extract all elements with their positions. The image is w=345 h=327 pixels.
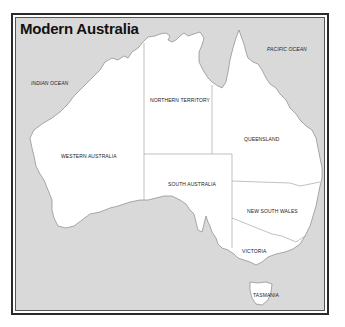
label-south-australia: SOUTH AUSTRALIA bbox=[168, 181, 216, 187]
label-northern-territory: NORTHERN TERRITORY bbox=[150, 97, 210, 103]
label-queensland: QUEENSLAND bbox=[244, 136, 279, 142]
label-indian-ocean: INDIAN OCEAN bbox=[31, 80, 68, 86]
map-title: Modern Australia bbox=[20, 20, 139, 37]
label-pacific-ocean: PACIFIC OCEAN bbox=[267, 46, 307, 52]
label-new-south-wales: NEW SOUTH WALES bbox=[247, 208, 298, 214]
label-western-australia: WESTERN AUSTRALIA bbox=[61, 153, 117, 159]
label-tasmania: TASMANIA bbox=[253, 292, 279, 298]
label-victoria: VICTORIA bbox=[242, 248, 266, 254]
australia-mainland bbox=[30, 30, 322, 265]
